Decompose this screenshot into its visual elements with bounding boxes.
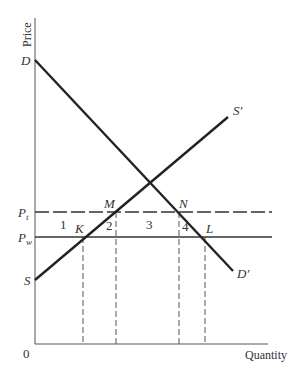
demand-curve: [35, 60, 233, 271]
demand-start-label: D: [20, 53, 31, 68]
supply-end-label: S′: [233, 103, 243, 118]
demand-end-label: D′: [236, 266, 249, 281]
point-k-label: K: [74, 221, 85, 236]
point-l-label: L: [205, 221, 213, 236]
x-axis-title: Quantity: [245, 348, 287, 362]
tariff-price-label: Pt: [17, 205, 29, 222]
area-4-label: 4: [182, 219, 189, 234]
point-n-label: N: [178, 196, 189, 211]
supply-curve: [35, 117, 228, 280]
area-1-label: 1: [60, 217, 67, 232]
origin-label: 0: [23, 346, 30, 361]
area-2-label: 2: [106, 218, 113, 233]
world-price-label: Pw: [17, 230, 32, 247]
supply-start-label: S: [24, 273, 31, 288]
tariff-diagram: Price Quantity 0 D D′ S S′ Pt Pw K M N L…: [0, 0, 307, 381]
point-m-label: M: [103, 196, 116, 211]
area-3-label: 3: [146, 217, 153, 232]
y-axis-title: Price: [20, 22, 34, 47]
